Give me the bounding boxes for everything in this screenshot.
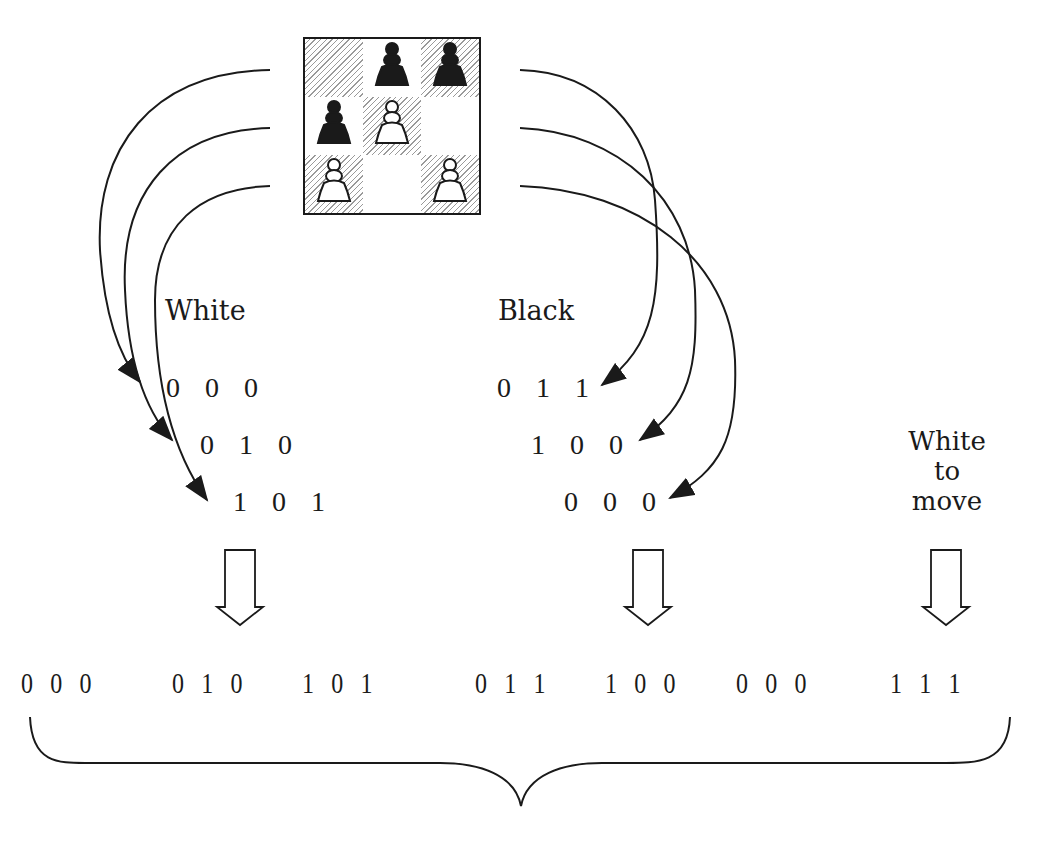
board-square-r1c2 <box>363 39 421 97</box>
board-square-r2c1 <box>305 97 363 155</box>
board-square-r1c1 <box>305 39 363 97</box>
down-arrow-to-move <box>923 550 969 625</box>
chess-board <box>303 37 481 215</box>
white-bits-row2: 0 1 0 <box>200 431 301 459</box>
bottom-side-to-move: 1 1 1 <box>890 668 966 698</box>
board-square-r3c3 <box>421 155 479 213</box>
bottom-white-group3: 1 0 1 <box>302 668 378 698</box>
white-pawn-icon <box>430 156 470 210</box>
bottom-black-group2: 1 0 0 <box>605 668 681 698</box>
bottom-black-group1: 0 1 1 <box>475 668 551 698</box>
board-square-r2c2 <box>363 97 421 155</box>
grouping-brace <box>30 717 1010 806</box>
bottom-black-group3: 0 0 0 <box>736 668 812 698</box>
bottom-white-group1: 0 0 0 <box>21 668 97 698</box>
diagram-canvas <box>0 0 1040 843</box>
down-arrow-white <box>217 550 263 625</box>
board-square-r3c1 <box>305 155 363 213</box>
down-arrow-black <box>625 550 671 625</box>
black-pawn-icon <box>314 98 354 152</box>
bottom-white-group2: 0 1 0 <box>172 668 248 698</box>
board-square-r3c2 <box>363 155 421 213</box>
black-bits-row3: 0 0 0 <box>564 488 665 516</box>
white-label: White <box>165 297 246 324</box>
black-bits-row2: 1 0 0 <box>531 431 632 459</box>
white-pawn-icon <box>372 98 412 152</box>
board-square-r1c3 <box>421 39 479 97</box>
board-square-r2c3 <box>421 97 479 155</box>
to-move-line1: White <box>895 427 999 457</box>
to-move-line2: to move <box>895 457 999 517</box>
arrow-row1-white <box>100 70 270 382</box>
black-label: Black <box>498 297 574 324</box>
black-pawn-icon <box>372 40 412 94</box>
black-pawn-icon <box>430 40 470 94</box>
black-bits-row1: 0 1 1 <box>497 374 598 402</box>
white-pawn-icon <box>314 156 354 210</box>
white-bits-row3: 1 0 1 <box>233 488 334 516</box>
white-to-move-label: White to move <box>895 427 999 517</box>
arrow-row1-black <box>520 70 657 385</box>
white-bits-row1: 0 0 0 <box>166 374 267 402</box>
down-arrows <box>217 550 969 625</box>
